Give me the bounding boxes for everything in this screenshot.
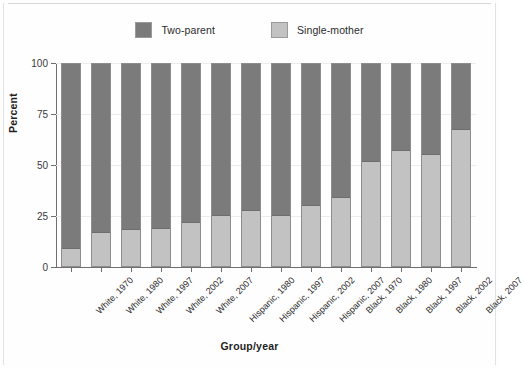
y-tick-label-100: 100 xyxy=(31,58,48,69)
bar-segment-single-mother xyxy=(92,232,110,266)
x-tick-mark-4 xyxy=(191,267,192,272)
bar-segment-single-mother xyxy=(152,228,170,266)
y-tick-label-75: 75 xyxy=(37,109,48,120)
bar-black-2007[interactable] xyxy=(451,63,471,267)
x-tick-mark-5 xyxy=(221,267,222,272)
bar-segment-single-mother xyxy=(332,197,350,266)
bar-segment-single-mother xyxy=(242,210,260,266)
bar-hispanic-1980[interactable] xyxy=(211,63,231,267)
bar-segment-two-parent xyxy=(362,64,380,161)
bar-segment-single-mother xyxy=(452,129,470,266)
y-tick-label-25: 25 xyxy=(37,211,48,222)
bar-white-1980[interactable] xyxy=(91,63,111,267)
bar-segment-two-parent xyxy=(392,64,410,150)
bar-black-1970[interactable] xyxy=(331,63,351,267)
bar-segment-two-parent xyxy=(212,64,230,215)
bar-hispanic-1997[interactable] xyxy=(241,63,261,267)
gridline-25 xyxy=(56,216,476,217)
plot-area: 0255075100 xyxy=(56,63,476,267)
gridline-100 xyxy=(56,63,476,64)
bar-hispanic-2007[interactable] xyxy=(301,63,321,267)
x-tick-mark-10 xyxy=(371,267,372,272)
bar-segment-single-mother xyxy=(422,154,440,266)
bar-segment-single-mother xyxy=(182,222,200,266)
x-axis-title: Group/year xyxy=(0,340,499,352)
y-tick-label-50: 50 xyxy=(37,160,48,171)
legend-label-single-mother: Single-mother xyxy=(297,24,364,36)
bar-segment-two-parent xyxy=(122,64,140,229)
bar-segment-two-parent xyxy=(332,64,350,197)
bar-black-2002[interactable] xyxy=(421,63,441,267)
y-tick-mark-25 xyxy=(51,216,56,217)
x-tick-mark-7 xyxy=(281,267,282,272)
y-tick-label-0: 0 xyxy=(42,262,48,273)
y-tick-mark-100 xyxy=(51,63,56,64)
bar-segment-two-parent xyxy=(452,64,470,129)
bar-segment-two-parent xyxy=(62,64,80,248)
x-tick-mark-12 xyxy=(431,267,432,272)
legend-item-single-mother: Single-mother xyxy=(271,22,364,38)
gridline-50 xyxy=(56,165,476,166)
bar-white-2007[interactable] xyxy=(181,63,201,267)
gridline-75 xyxy=(56,114,476,115)
bar-segment-single-mother xyxy=(362,161,380,266)
legend-swatch-single-mother-icon xyxy=(271,22,288,38)
legend-swatch-two-parent-icon xyxy=(135,22,152,38)
bar-segment-two-parent xyxy=(272,64,290,215)
x-tick-mark-8 xyxy=(311,267,312,272)
bar-segment-single-mother xyxy=(122,229,140,266)
chart-legend: Two-parent Single-mother xyxy=(0,22,499,38)
x-tick-mark-11 xyxy=(401,267,402,272)
y-tick-mark-0 xyxy=(51,267,56,268)
y-axis-title: Percent xyxy=(7,93,19,133)
bar-segment-two-parent xyxy=(92,64,110,232)
bar-white-2002[interactable] xyxy=(151,63,171,267)
scan-top-rule xyxy=(8,3,491,4)
bar-segment-single-mother xyxy=(212,215,230,266)
bar-segment-two-parent xyxy=(242,64,260,210)
bar-segment-single-mother xyxy=(272,215,290,266)
bar-segment-two-parent xyxy=(422,64,440,154)
x-tick-mark-9 xyxy=(341,267,342,272)
bar-segment-two-parent xyxy=(152,64,170,228)
x-axis-line xyxy=(56,267,477,268)
x-tick-mark-2 xyxy=(131,267,132,272)
bar-hispanic-2002[interactable] xyxy=(271,63,291,267)
bar-segment-single-mother xyxy=(392,150,410,266)
bar-white-1997[interactable] xyxy=(121,63,141,267)
bar-segment-single-mother xyxy=(62,248,80,266)
legend-item-two-parent: Two-parent xyxy=(135,22,215,38)
x-tick-mark-3 xyxy=(161,267,162,272)
x-tick-mark-0 xyxy=(71,267,72,272)
x-tick-mark-1 xyxy=(101,267,102,272)
bar-segment-two-parent xyxy=(182,64,200,222)
bar-white-1970[interactable] xyxy=(61,63,81,267)
legend-label-two-parent: Two-parent xyxy=(161,24,215,36)
bar-segment-two-parent xyxy=(302,64,320,205)
x-tick-mark-6 xyxy=(251,267,252,272)
bar-black-1980[interactable] xyxy=(361,63,381,267)
bar-black-1997[interactable] xyxy=(391,63,411,267)
y-tick-mark-50 xyxy=(51,165,56,166)
bar-segment-single-mother xyxy=(302,205,320,266)
scan-left-rule xyxy=(3,3,4,365)
x-tick-mark-13 xyxy=(461,267,462,272)
y-tick-mark-75 xyxy=(51,114,56,115)
